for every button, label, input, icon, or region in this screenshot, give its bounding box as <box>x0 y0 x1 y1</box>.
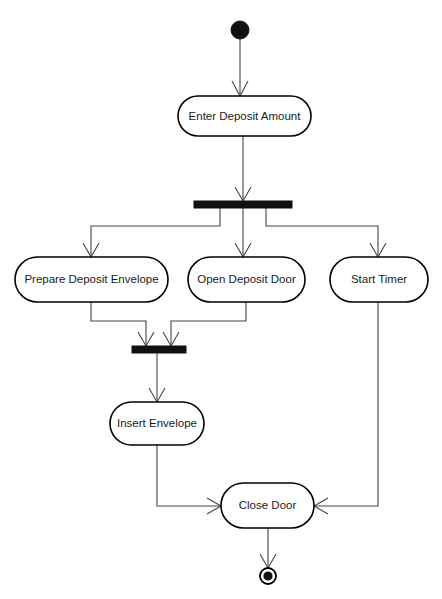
edge-enter-deposit-amount-to-fork <box>235 136 251 201</box>
edge-start-timer-to-close-door <box>314 302 378 514</box>
final-node[interactable] <box>260 568 276 584</box>
fork-bar[interactable] <box>194 201 292 208</box>
join-bar[interactable] <box>132 346 186 353</box>
edge-fork-to-start-timer <box>266 208 386 257</box>
edge-prepare-deposit-envelope-to-join <box>91 302 154 346</box>
activity-label-close-door: Close Door <box>239 499 297 511</box>
activity-enter-deposit-amount[interactable]: Enter Deposit Amount <box>178 96 311 136</box>
activity-label-enter-deposit-amount: Enter Deposit Amount <box>189 110 302 122</box>
activity-close-door[interactable]: Close Door <box>221 483 314 528</box>
edge-join-to-insert-envelope <box>149 353 165 402</box>
activity-prepare-deposit-envelope[interactable]: Prepare Deposit Envelope <box>15 257 168 302</box>
activity-open-deposit-door[interactable]: Open Deposit Door <box>188 257 305 302</box>
activity-label-prepare-deposit-envelope: Prepare Deposit Envelope <box>24 273 158 285</box>
activity-label-start-timer: Start Timer <box>351 273 407 285</box>
activity-label-insert-envelope: Insert Envelope <box>117 417 197 429</box>
activity-diagram: Enter Deposit Amount Prepare Deposit Env… <box>0 0 442 599</box>
initial-node[interactable] <box>231 21 249 39</box>
edge-insert-envelope-to-close-door <box>157 445 221 514</box>
edge-open-deposit-door-to-join <box>163 302 246 346</box>
edge-close-door-to-final <box>260 528 276 568</box>
edge-fork-to-prepare-deposit-envelope <box>83 208 220 257</box>
activity-start-timer[interactable]: Start Timer <box>330 257 428 302</box>
edge-initial-to-enter-deposit-amount <box>232 39 248 96</box>
activity-insert-envelope[interactable]: Insert Envelope <box>110 402 204 445</box>
edge-fork-to-open-deposit-door <box>235 208 251 257</box>
activity-diagram-canvas: Enter Deposit Amount Prepare Deposit Env… <box>0 0 442 599</box>
activity-label-open-deposit-door: Open Deposit Door <box>197 273 296 285</box>
